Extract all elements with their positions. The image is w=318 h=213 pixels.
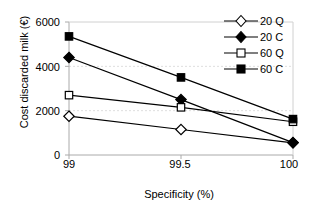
data-point xyxy=(64,111,74,121)
chart-container: Cost discarded milk (€) 6000 4000 2000 0… xyxy=(0,0,318,213)
legend-marker-filled-diamond-icon xyxy=(224,30,258,44)
legend-item-1[interactable]: 20 C xyxy=(224,30,284,44)
legend-marker-filled-square-icon xyxy=(224,62,258,76)
data-point xyxy=(289,115,296,122)
legend-item-3[interactable]: 60 C xyxy=(224,62,284,76)
legend-marker-open-diamond-icon xyxy=(224,14,258,28)
data-point xyxy=(64,52,74,62)
legend-label-3: 60 C xyxy=(260,64,283,75)
legend-label-2: 60 Q xyxy=(260,48,284,59)
legend-marker-open-square-icon xyxy=(224,46,258,60)
data-point xyxy=(177,104,184,111)
legend-item-2[interactable]: 60 Q xyxy=(224,46,284,60)
data-point xyxy=(176,124,186,134)
legend-label-0: 20 Q xyxy=(260,16,284,27)
legend-item-0[interactable]: 20 Q xyxy=(224,14,284,28)
legend-label-1: 20 C xyxy=(260,32,283,43)
legend: 20 Q 20 C 60 Q 60 C xyxy=(224,14,284,76)
data-point xyxy=(65,33,72,40)
data-point xyxy=(177,74,184,81)
x-axis-title: Specificity (%) xyxy=(62,188,296,200)
series-20-q xyxy=(64,111,298,148)
data-point xyxy=(288,137,298,147)
data-point xyxy=(65,91,72,98)
